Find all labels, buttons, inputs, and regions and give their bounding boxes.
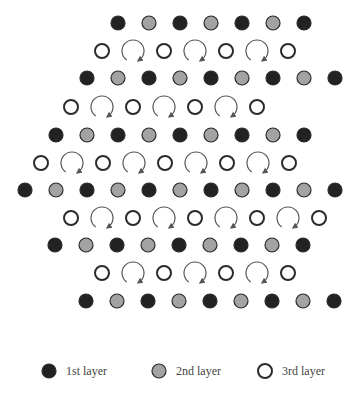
- layer1-atom: [142, 183, 156, 197]
- layer2-atom: [141, 238, 155, 252]
- layer1-atom: [297, 16, 311, 30]
- layer2-atom: [265, 238, 279, 252]
- lattice: [18, 16, 342, 308]
- layer2-atom: [297, 71, 311, 85]
- layer2-atom: [234, 294, 248, 308]
- layer1-atom: [297, 128, 311, 142]
- layer3-atom: [95, 44, 109, 58]
- layer3-atom: [250, 211, 264, 225]
- layer3-atom: [250, 100, 264, 114]
- layer2-atom: [172, 294, 186, 308]
- layer2-atom: [203, 238, 217, 252]
- layer1-atom: [141, 294, 155, 308]
- layer3-atom: [282, 156, 296, 170]
- rotation-arrow-icon: [246, 262, 268, 282]
- rotation-arrow-icon: [215, 96, 237, 116]
- layer3-atom: [157, 44, 171, 58]
- rotation-arrow-icon: [277, 207, 299, 227]
- rotation-arrow-icon: [153, 207, 175, 227]
- legend: 1st layer 2nd layer 3rd layer: [42, 364, 325, 378]
- layer1-swatch-icon: [42, 364, 56, 378]
- layer1-atom: [111, 16, 125, 30]
- layer1-atom: [173, 16, 187, 30]
- layer3-atom: [158, 156, 172, 170]
- layer2-atom: [204, 16, 218, 30]
- layer3-atom: [64, 100, 78, 114]
- layer3-atom: [34, 156, 48, 170]
- layer1-atom: [142, 71, 156, 85]
- layer3-atom: [220, 156, 234, 170]
- layer1-atom: [80, 71, 94, 85]
- layer1-atom: [172, 238, 186, 252]
- layer1-atom: [48, 238, 62, 252]
- layer3-atom: [281, 44, 295, 58]
- layer2-atom: [266, 128, 280, 142]
- layer1-atom: [265, 294, 279, 308]
- rotation-arrow-icon: [91, 207, 113, 227]
- rotation-arrow-icon: [122, 262, 144, 282]
- layer3-atom: [96, 156, 110, 170]
- layer1-atom: [204, 183, 218, 197]
- layer1-atom: [328, 71, 342, 85]
- layer3-atom: [188, 211, 202, 225]
- rotation-arrow-icon: [215, 207, 237, 227]
- layer3-atom: [126, 100, 140, 114]
- layer3-atom: [219, 44, 233, 58]
- layer1-atom: [235, 128, 249, 142]
- layer1-atom: [49, 128, 63, 142]
- layer2-atom: [235, 71, 249, 85]
- layer1-atom: [173, 128, 187, 142]
- legend-item-layer3: 3rd layer: [258, 364, 325, 378]
- layer1-atom: [204, 71, 218, 85]
- layer1-atom: [203, 294, 217, 308]
- rotation-arrow-icon: [91, 96, 113, 116]
- layer2-atom: [111, 183, 125, 197]
- rotation-arrow-icon: [185, 152, 207, 172]
- layer3-atom: [312, 211, 326, 225]
- layer1-atom: [80, 183, 94, 197]
- rotation-arrow-icon: [247, 152, 269, 172]
- rotation-arrow-icon: [122, 40, 144, 60]
- layer-stacking-diagram: 1st layer 2nd layer 3rd layer: [0, 0, 355, 397]
- layer1-atom: [235, 16, 249, 30]
- legend-label-layer2: 2nd layer: [176, 364, 221, 378]
- layer3-swatch-icon: [258, 364, 272, 378]
- layer2-atom: [204, 128, 218, 142]
- layer3-atom: [157, 266, 171, 280]
- layer2-atom: [297, 183, 311, 197]
- layer3-atom: [126, 211, 140, 225]
- legend-label-layer3: 3rd layer: [282, 364, 325, 378]
- rotation-arrow-icon: [123, 152, 145, 172]
- layer1-atom: [328, 183, 342, 197]
- layer2-atom: [296, 294, 310, 308]
- layer2-atom: [111, 71, 125, 85]
- layer1-atom: [234, 238, 248, 252]
- layer2-atom: [79, 238, 93, 252]
- layer3-atom: [64, 211, 78, 225]
- layer2-atom: [266, 16, 280, 30]
- layer1-atom: [266, 71, 280, 85]
- legend-label-layer1: 1st layer: [66, 364, 107, 378]
- layer2-atom: [173, 183, 187, 197]
- rotation-arrow-icon: [153, 96, 175, 116]
- rotation-arrow-icon: [184, 262, 206, 282]
- layer1-atom: [296, 238, 310, 252]
- layer3-atom: [188, 100, 202, 114]
- layer2-atom: [80, 128, 94, 142]
- layer2-atom: [142, 16, 156, 30]
- layer2-atom: [49, 183, 63, 197]
- layer2-atom: [173, 71, 187, 85]
- layer2-swatch-icon: [152, 364, 166, 378]
- legend-item-layer1: 1st layer: [42, 364, 107, 378]
- layer2-atom: [142, 128, 156, 142]
- layer1-atom: [327, 294, 341, 308]
- layer1-atom: [18, 183, 32, 197]
- layer1-atom: [266, 183, 280, 197]
- layer1-atom: [111, 128, 125, 142]
- rotation-arrow-icon: [184, 40, 206, 60]
- rotation-arrow-icon: [246, 40, 268, 60]
- layer2-atom: [235, 183, 249, 197]
- layer2-atom: [110, 294, 124, 308]
- rotation-arrow-icon: [61, 152, 83, 172]
- layer3-atom: [219, 266, 233, 280]
